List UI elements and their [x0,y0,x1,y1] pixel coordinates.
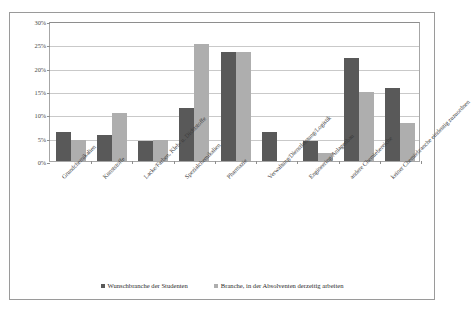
legend-label: Branche, in der Absolventen derzeitig ar… [221,282,344,290]
bar[interactable] [112,113,127,161]
y-axis-tick-mark [47,140,50,141]
bar-group [262,23,292,161]
y-axis-tick-label: 25% [35,42,46,49]
legend-swatch-icon [101,284,105,288]
bar[interactable] [262,132,277,161]
bar[interactable] [344,58,359,161]
bar[interactable] [385,88,400,161]
y-axis-tick-label: 0% [38,159,46,166]
y-axis-tick-mark [47,46,50,47]
y-axis-tick-label: 5% [38,135,46,142]
legend-item[interactable]: Wunschbranche der Studenten [101,282,188,290]
bar[interactable] [97,135,112,161]
x-axis-tick-mark [339,161,340,164]
x-axis-tick-mark [132,161,133,164]
bar[interactable] [221,52,236,161]
x-axis-category-labels: GrundchemikalienKunststoffeLacke/Farben,… [49,173,439,273]
legend-item[interactable]: Branche, in der Absolventen derzeitig ar… [214,282,344,290]
figure-frame: 0%5%10%15%20%25%30% GrundchemikalienKuns… [9,12,435,300]
y-axis-tick-label: 15% [35,89,46,96]
x-axis-tick-mark [174,161,175,164]
x-axis-tick-mark [91,161,92,164]
bar-group [138,23,168,161]
y-axis-tick-mark [47,163,50,164]
bar-group [221,23,251,161]
plot-area [49,22,420,162]
chart-legend: Wunschbranche der StudentenBranche, in d… [10,282,434,290]
bar[interactable] [236,52,251,161]
bar-group [97,23,127,161]
y-axis-tick-label: 30% [35,19,46,26]
legend-label: Wunschbranche der Studenten [108,282,188,290]
bar[interactable] [194,44,209,161]
y-axis-tick-mark [47,23,50,24]
y-axis-tick-label: 10% [35,112,46,119]
x-axis-tick-mark [380,161,381,164]
chart-plot-wrapper: 0%5%10%15%20%25%30% [22,22,422,172]
x-axis-tick-mark [297,161,298,164]
legend-swatch-icon [214,284,218,288]
y-axis-tick-label: 20% [35,65,46,72]
x-axis-tick-mark [215,161,216,164]
bar[interactable] [56,132,71,161]
y-axis-tick-mark [47,116,50,117]
y-axis-tick-mark [47,70,50,71]
y-axis-tick-mark [47,93,50,94]
bar-group [56,23,86,161]
bars-layer [50,23,419,161]
bar[interactable] [138,141,153,161]
x-axis-tick-mark [256,161,257,164]
x-axis-tick-mark [421,161,422,164]
y-axis: 0%5%10%15%20%25%30% [22,22,48,162]
